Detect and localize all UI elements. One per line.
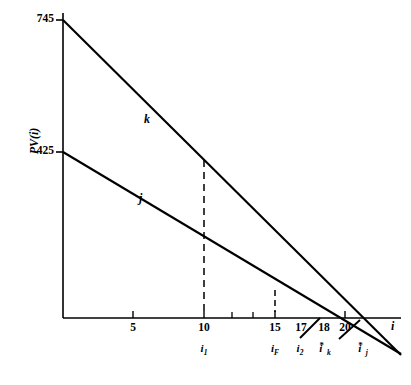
annotation-iF: iF: [265, 343, 285, 354]
curve-label-j: j: [139, 192, 142, 204]
x-tick-label-15: 15: [265, 322, 285, 334]
x-tick-label-20: 20: [335, 322, 355, 334]
annotation-ij-sub: j: [366, 348, 368, 357]
annotation-ik-star-glyph: *: [319, 340, 324, 350]
curve-label-k: k: [144, 113, 150, 125]
x-tick-label-17: 17: [291, 322, 311, 334]
annotation-i1: i1: [194, 343, 214, 354]
curve-k-line: [63, 20, 401, 355]
y-tick-label-745: 745: [22, 13, 54, 25]
annotation-i2-sub: 2: [300, 348, 304, 357]
y-axis-title-sub: i: [27, 132, 41, 135]
annotation-ij-star: i*j: [352, 343, 374, 354]
x-tick-label-10: 10: [194, 322, 214, 334]
y-axis-title-close: ): [27, 128, 41, 132]
annotation-i1-sub: 1: [204, 348, 208, 357]
annotation-ij-star-glyph: *: [358, 340, 363, 350]
x-axis-title: i: [391, 320, 394, 332]
annotation-iF-sub: F: [274, 348, 279, 357]
x-tick-label-18: 18: [314, 322, 334, 334]
y-axis-title: PV(i): [27, 111, 45, 171]
y-tick-label-425: 425: [22, 145, 54, 157]
annotation-ik-sub: k: [327, 348, 331, 357]
annotation-i2: i2: [290, 343, 310, 354]
pv-function-chart: PV(i) 745 425 5 10 15 17 18 20 i k j i1 …: [0, 0, 411, 385]
annotation-ik-star: i*k: [314, 343, 336, 354]
x-tick-label-5: 5: [123, 322, 143, 334]
